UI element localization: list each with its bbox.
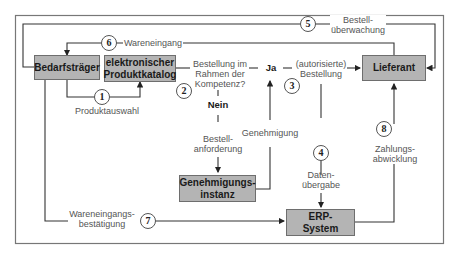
step-5: 5 — [300, 16, 316, 32]
label-bestellanforderung-line1: Bestell- — [190, 134, 246, 144]
decision-yes: Ja — [259, 63, 283, 73]
label-autorisierte-bestellung: (autorisierte) Bestellung — [292, 59, 350, 79]
label-web-line2: bestätigung — [66, 219, 138, 229]
step-7: 7 — [140, 213, 156, 229]
label-produktauswahl: Produktauswahl — [72, 106, 142, 116]
label-autorisierte-line2: Bestellung — [292, 69, 350, 79]
decision-question-line3: Kompetenz? — [189, 79, 251, 89]
step-1: 1 — [94, 89, 110, 105]
decision-no: Nein — [204, 100, 232, 110]
label-autorisierte-line1: (autorisierte) — [292, 59, 350, 69]
node-produktkatalog-line2: Produktkatalog — [104, 69, 177, 81]
label-bestellanforderung-line2: anforderung — [190, 144, 246, 154]
node-bedarfstraeger: Bedarfsträger — [34, 55, 100, 80]
step-4: 4 — [313, 145, 329, 161]
label-zahlungsabwicklung-line1: Zahlungs- — [368, 144, 422, 154]
node-bedarfstraeger-label: Bedarfsträger — [34, 62, 100, 74]
decision-question-line1: Bestellung im — [189, 59, 251, 69]
label-bestellueberwachung: Bestell- überwachung — [330, 15, 386, 35]
label-datenuebergabe: Daten- übergabe — [301, 170, 341, 190]
label-zahlungsabwicklung: Zahlungs- abwicklung — [368, 144, 422, 164]
node-produktkatalog-line1: elektronischer — [106, 57, 174, 69]
label-datenuebergabe-line1: Daten- — [301, 170, 341, 180]
step-6: 6 — [101, 35, 117, 51]
step-8: 8 — [376, 121, 392, 137]
step-3: 3 — [284, 78, 300, 94]
label-datenuebergabe-line2: übergabe — [301, 180, 341, 190]
node-genehmigungsinstanz-line2: instanz — [200, 189, 234, 201]
node-genehmigungsinstanz-line1: Genehmigungs- — [179, 177, 255, 189]
label-wareneingang: Wareneingang — [123, 38, 183, 48]
label-zahlungsabwicklung-line2: abwicklung — [368, 154, 422, 164]
label-bestellanforderung: Bestell- anforderung — [190, 134, 246, 154]
node-erp-system: ERP- System — [286, 209, 355, 236]
node-erp-system-line1: ERP- — [309, 211, 333, 223]
node-lieferant: Lieferant — [362, 55, 426, 81]
node-genehmigungsinstanz: Genehmigungs- instanz — [179, 175, 256, 202]
label-bestellueberwachung-line1: Bestell- — [330, 15, 386, 25]
node-lieferant-label: Lieferant — [373, 62, 415, 74]
step-2: 2 — [176, 83, 192, 99]
node-produktkatalog: elektronischer Produktkatalog — [104, 55, 176, 82]
label-wareneingangsbestaetigung: Wareneingangs- bestätigung — [66, 209, 138, 229]
label-bestellueberwachung-line2: überwachung — [330, 25, 386, 35]
label-genehmigung: Genehmigung — [241, 128, 299, 138]
label-web-line1: Wareneingangs- — [66, 209, 138, 219]
decision-question-line2: Rahmen der — [189, 69, 251, 79]
node-erp-system-line2: System — [303, 223, 339, 235]
decision-question: Bestellung im Rahmen der Kompetenz? — [189, 59, 251, 89]
